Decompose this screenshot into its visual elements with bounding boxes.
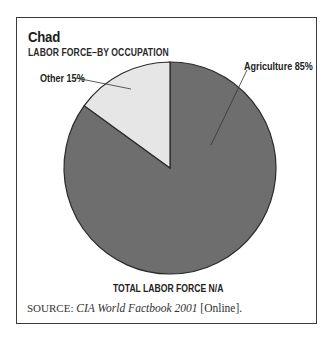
total-labor-force-text: TOTAL LABOR FORCE N/A (113, 283, 223, 294)
source-citation: SOURCE: CIA World Factbook 2001 [Online]… (27, 302, 242, 314)
label-other: Other 15% (40, 72, 85, 84)
label-agriculture: Agriculture 85% (244, 60, 313, 72)
total-labor-force: TOTAL LABOR FORCE N/A (0, 283, 336, 294)
source-suffix: [Online]. (200, 302, 242, 314)
source-prefix: SOURCE: (27, 302, 73, 314)
source-title: CIA World Factbook 2001 (76, 302, 197, 314)
